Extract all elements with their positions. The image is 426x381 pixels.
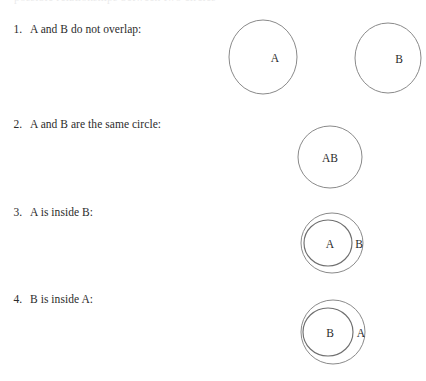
list-item-2: 2. A and B are the same circle:: [0, 117, 230, 132]
figure-a-inside-b: A B: [294, 208, 374, 280]
page-canvas: possible relationships between two circl…: [0, 0, 426, 381]
circle-b-outline: [355, 23, 421, 93]
list-item-number: 4.: [0, 292, 22, 307]
disjoint-circles-svg: A B: [225, 15, 425, 105]
list-item-1: 1. A and B do not overlap:: [0, 22, 230, 37]
circle-b-label: B: [395, 53, 403, 65]
list-item-label: B is inside A:: [30, 292, 93, 307]
list-item-4: 4. B is inside A:: [0, 292, 230, 307]
figure-disjoint-circles: A B: [225, 15, 425, 105]
circle-a-label: A: [326, 238, 335, 250]
list-item-label: A and B do not overlap:: [30, 22, 141, 37]
figure-identical-circle: AB: [292, 122, 372, 194]
list-item-label: A is inside B:: [30, 205, 93, 220]
circle-a-label: A: [357, 327, 366, 339]
circle-ab-label: AB: [322, 152, 338, 164]
circle-b-label: B: [355, 238, 363, 250]
list-item-3: 3. A is inside B:: [0, 205, 230, 220]
list-item-number: 2.: [0, 117, 22, 132]
a-inside-b-svg: A B: [294, 208, 374, 280]
b-inside-a-svg: B A: [294, 295, 378, 371]
list-item-number: 3.: [0, 205, 22, 220]
identical-circle-svg: AB: [292, 122, 372, 194]
circle-a-outline: [229, 20, 297, 94]
list-item-label: A and B are the same circle:: [30, 117, 161, 132]
cropped-heading-text: possible relationships between two circl…: [14, 0, 216, 3]
circle-b-label: B: [326, 327, 334, 339]
figure-b-inside-a: B A: [294, 295, 378, 371]
circle-a-label: A: [271, 52, 280, 64]
list-item-number: 1.: [0, 22, 22, 37]
cropped-heading-artifact: possible relationships between two circl…: [0, 0, 426, 11]
